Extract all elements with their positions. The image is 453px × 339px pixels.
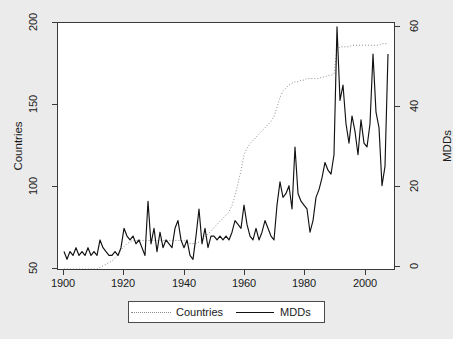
ytick-label-right-60: 60 <box>408 11 420 41</box>
xtick-mark-2000 <box>365 270 366 275</box>
xtick-label-1920: 1920 <box>101 277 145 289</box>
legend-entry-mdds[interactable]: MDDs <box>233 302 321 322</box>
xtick-label-1960: 1960 <box>222 277 266 289</box>
ytick-mark-right-40 <box>395 106 400 107</box>
legend-label-countries: Countries <box>173 306 233 318</box>
xtick-label-1980: 1980 <box>282 277 326 289</box>
ytick-label-left-50: 50 <box>27 251 39 285</box>
xtick-mark-1980 <box>304 270 305 275</box>
ytick-mark-left-150 <box>52 104 57 105</box>
y-axis-title-left: Countries <box>12 86 24 206</box>
chart-legend: Countries MDDs <box>128 301 325 323</box>
ytick-label-left-100: 100 <box>27 169 39 203</box>
legend-label-mdds: MDDs <box>277 306 321 318</box>
ytick-mark-left-100 <box>52 186 57 187</box>
y-axis-title-right: MDDs <box>441 86 453 206</box>
ytick-label-left-200: 200 <box>27 5 39 39</box>
ytick-label-right-40: 40 <box>408 91 420 121</box>
xtick-mark-1900 <box>63 270 64 275</box>
ytick-mark-left-200 <box>52 22 57 23</box>
legend-solid-line-icon <box>233 307 277 317</box>
ytick-mark-left-50 <box>52 268 57 269</box>
ytick-mark-right-0 <box>395 266 400 267</box>
plot-lines <box>58 23 394 269</box>
xtick-mark-1920 <box>123 270 124 275</box>
xtick-mark-1960 <box>244 270 245 275</box>
ytick-label-left-150: 150 <box>27 87 39 121</box>
series-line-mdds <box>64 27 388 259</box>
ytick-label-right-0: 0 <box>408 251 420 281</box>
legend-dotted-line-icon <box>129 307 173 317</box>
xtick-mark-1940 <box>184 270 185 275</box>
ytick-mark-right-20 <box>395 186 400 187</box>
xtick-label-2000: 2000 <box>343 277 387 289</box>
xtick-label-1940: 1940 <box>162 277 206 289</box>
ytick-label-right-20: 20 <box>408 171 420 201</box>
xtick-label-1900: 1900 <box>41 277 85 289</box>
plot-area <box>57 22 395 270</box>
legend-entry-countries[interactable]: Countries <box>129 302 233 322</box>
ytick-mark-right-60 <box>395 26 400 27</box>
